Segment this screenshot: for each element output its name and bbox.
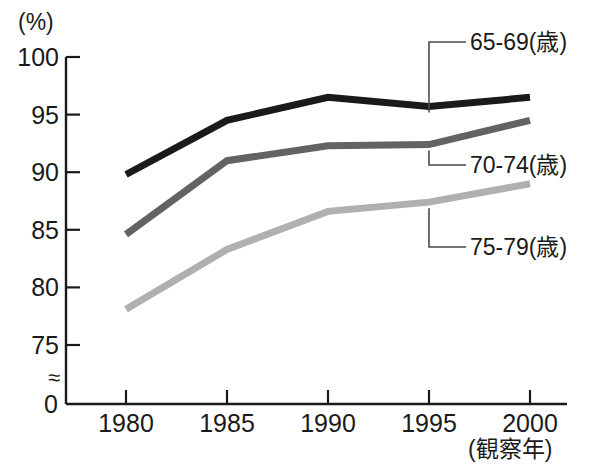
series-label-65-69(歳): 65-69(歳)	[470, 29, 567, 55]
y-axis-unit-label: (%)	[18, 9, 54, 35]
y-axis-ticks: 7580859095100	[17, 43, 80, 359]
series-label-75-79(歳): 75-79(歳)	[470, 234, 567, 260]
line-chart: (%) 7580859095100 ≈ 0 198019851990199520…	[0, 0, 603, 468]
x-axis-ticks: 19801985199019952000	[98, 390, 558, 437]
y-tick-label-100: 100	[17, 43, 59, 71]
x-axis-caption: (観察年)	[468, 436, 552, 462]
leader-line-70-74(歳)	[429, 151, 466, 165]
y-tick-label-90: 90	[31, 158, 59, 186]
x-tick-label-1990: 1990	[300, 409, 356, 437]
axis-break-icon: ≈	[48, 365, 60, 390]
x-tick-label-1995: 1995	[401, 409, 457, 437]
y-tick-label-85: 85	[31, 216, 59, 244]
series-label-70-74(歳): 70-74(歳)	[470, 152, 567, 178]
y-axis-zero-label: 0	[44, 390, 58, 418]
x-tick-label-1980: 1980	[98, 409, 154, 437]
y-tick-label-80: 80	[31, 273, 59, 301]
chart-canvas: (%) 7580859095100 ≈ 0 198019851990199520…	[0, 0, 603, 468]
x-tick-label-1985: 1985	[199, 409, 255, 437]
y-tick-label-75: 75	[31, 331, 59, 359]
y-tick-label-95: 95	[31, 101, 59, 129]
data-series-group	[126, 97, 530, 309]
x-tick-label-2000: 2000	[502, 409, 558, 437]
leader-line-75-79(歳)	[429, 208, 466, 247]
series-annotations: 65-69(歳)70-74(歳)75-79(歳)	[429, 29, 567, 260]
